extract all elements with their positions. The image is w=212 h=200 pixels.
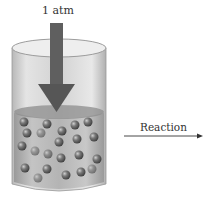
cylinder-diagram — [0, 0, 212, 200]
reaction-arrow-icon — [124, 134, 203, 139]
